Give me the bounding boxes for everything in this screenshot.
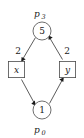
place-p3-subscript: 3 — [41, 13, 45, 21]
place-p0-name: p 0 — [34, 125, 45, 137]
place-p3-name-text: p — [34, 9, 40, 19]
place-p0[interactable]: 1 — [33, 101, 51, 119]
place-p0-subscript: 0 — [41, 129, 45, 137]
transition-y[interactable]: y — [59, 61, 75, 77]
graph-canvas: 5 1 x y p 3 p 0 2 2 — [0, 0, 84, 138]
edge-p0-to-y — [50, 77, 64, 103]
edge-line-x-p0 — [22, 80, 35, 104]
edge-line-y-p3 — [50, 38, 63, 60]
edge-y-to-p3 — [48, 35, 62, 59]
edge-weight-p3-x: 2 — [15, 46, 21, 56]
place-p3-name: p 3 — [34, 9, 45, 21]
transition-x[interactable]: x — [8, 61, 24, 77]
petri-net-diagram: 5 1 x y p 3 p 0 2 2 — [0, 0, 84, 138]
place-p0-name-text: p — [34, 125, 40, 135]
place-p3-tokens: 5 — [39, 26, 45, 36]
edge-line-p0-y — [50, 80, 63, 104]
transition-y-label: y — [64, 65, 71, 75]
edge-weight-y-p3: 2 — [64, 46, 70, 56]
place-p3[interactable]: 5 — [33, 22, 51, 40]
place-p0-tokens: 1 — [39, 105, 45, 115]
edge-line-p3-x — [23, 38, 36, 60]
edge-p3-to-x — [21, 38, 35, 62]
edge-x-to-p0 — [22, 80, 36, 106]
transition-x-label: x — [14, 65, 19, 75]
